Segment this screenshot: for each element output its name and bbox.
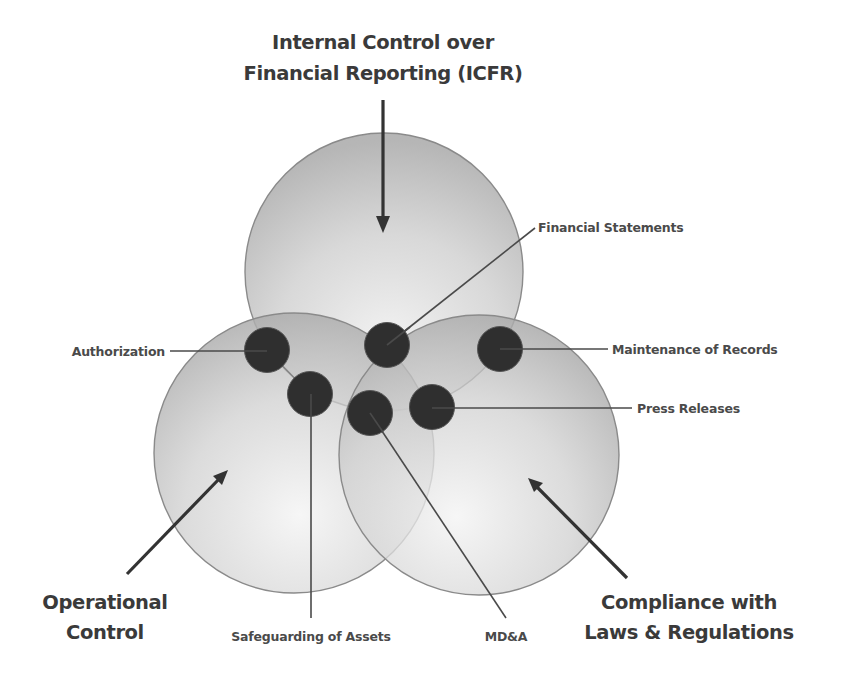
authorization-label: Authorization	[72, 344, 165, 359]
icfr-title-line1: Internal Control over	[272, 31, 495, 54]
safeguarding-dot	[288, 372, 333, 417]
icfr-venn-diagram: Internal Control over Financial Reportin…	[0, 0, 855, 682]
press-releases-label: Press Releases	[637, 401, 740, 416]
press-releases-dot	[410, 385, 455, 430]
compliance-line2: Laws & Regulations	[584, 621, 793, 644]
maintenance-of-records-label: Maintenance of Records	[612, 342, 778, 357]
compliance-line1: Compliance with	[601, 591, 777, 614]
mdna-label: MD&A	[485, 629, 528, 644]
icfr-title-line2: Financial Reporting (ICFR)	[244, 62, 523, 85]
operational-control-line2: Control	[66, 621, 144, 644]
financial-statements-label: Financial Statements	[538, 220, 684, 235]
operational-control-line1: Operational	[42, 591, 167, 614]
safeguarding-of-assets-label: Safeguarding of Assets	[231, 629, 391, 644]
authorization-dot	[245, 328, 290, 373]
